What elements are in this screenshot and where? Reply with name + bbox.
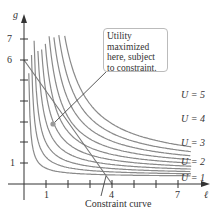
- y-axis-label: g: [13, 10, 18, 20]
- label-u5: U = 5: [181, 90, 205, 100]
- callout-box: Utility maximized here, subject to const…: [103, 28, 168, 72]
- y-tick-7: 7: [7, 34, 12, 44]
- callout-line-3: to constraint.: [107, 63, 164, 74]
- y-axis-arrow-icon: [21, 14, 27, 23]
- x-tick-7: 7: [175, 190, 180, 200]
- constraint-label: Constraint curve: [85, 199, 151, 209]
- optimum-point: [50, 121, 55, 126]
- y-tick-1: 1: [10, 158, 15, 168]
- label-u1: U = 1: [181, 173, 205, 183]
- y-tick-6: 6: [7, 55, 12, 65]
- callout-line-1: Utility maximized: [107, 31, 164, 52]
- x-tick-1: 1: [44, 190, 49, 200]
- constraint-leader: [101, 176, 106, 196]
- label-u4: U = 4: [181, 114, 205, 124]
- callout-line-2: here, subject: [107, 52, 164, 63]
- label-u2: U = 2: [181, 157, 205, 167]
- label-u3: U = 3: [181, 138, 205, 148]
- utility-diagram: g 7 6 1 1 4 7 ℓ U = 1 U = 2 U = 3 U = 4 …: [0, 0, 214, 216]
- x-axis-label: ℓ: [204, 190, 208, 200]
